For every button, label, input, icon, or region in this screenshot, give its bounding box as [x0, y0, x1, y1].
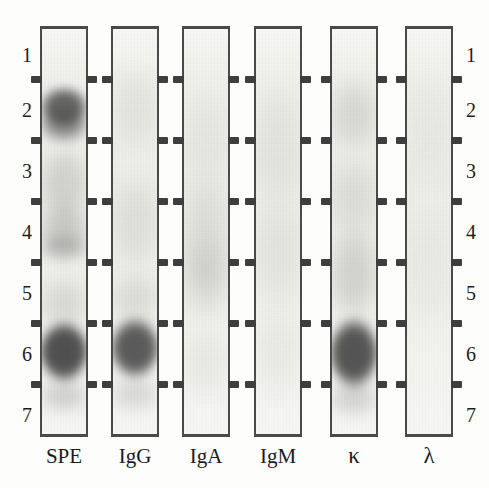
tick-mark-left-6: [31, 381, 42, 388]
tick-mark-right-4: [376, 259, 387, 266]
gel-lane-spe: [40, 26, 88, 437]
gel-strip-grain: [332, 29, 376, 434]
scale-left-label-4: 4: [14, 222, 40, 242]
tick-mark-left-5: [102, 320, 113, 327]
tick-mark-right-2: [86, 137, 97, 144]
tick-mark-left-2: [396, 137, 407, 144]
tick-mark-left-5: [31, 320, 42, 327]
tick-mark-right-6: [300, 381, 311, 388]
lane-label-spe: SPE: [26, 444, 102, 468]
scale-right-label-4: 4: [458, 222, 484, 242]
tick-mark-right-3: [228, 198, 239, 205]
tick-mark-left-1: [31, 76, 42, 83]
tick-mark-left-5: [321, 320, 332, 327]
gel-strip: [254, 26, 302, 437]
gel-strip: [330, 26, 378, 437]
gel-strip: [182, 26, 230, 437]
tick-mark-left-2: [321, 137, 332, 144]
scale-left-label-7: 7: [14, 405, 40, 425]
gel-strip-grain: [407, 29, 451, 434]
tick-mark-right-4: [86, 259, 97, 266]
scale-right-label-6: 6: [458, 344, 484, 364]
ife-gel-figure: 1234567 1234567 SPEIgGIgAIgMκλ: [0, 0, 489, 488]
tick-mark-left-1: [321, 76, 332, 83]
tick-mark-left-5: [396, 320, 407, 327]
tick-mark-left-6: [245, 381, 256, 388]
scale-left-label-3: 3: [14, 161, 40, 181]
tick-mark-right-4: [228, 259, 239, 266]
gel-strip: [111, 26, 159, 437]
scale-right-label-3: 3: [458, 161, 484, 181]
tick-mark-left-1: [245, 76, 256, 83]
tick-mark-right-2: [157, 137, 168, 144]
tick-mark-left-6: [173, 381, 184, 388]
tick-mark-left-4: [173, 259, 184, 266]
scale-right-label-1: 1: [458, 45, 484, 65]
tick-mark-left-3: [321, 198, 332, 205]
tick-mark-right-3: [86, 198, 97, 205]
gel-strip-grain: [256, 29, 300, 434]
tick-mark-right-2: [451, 137, 462, 144]
tick-mark-right-6: [451, 381, 462, 388]
tick-mark-left-3: [396, 198, 407, 205]
tick-mark-right-5: [376, 320, 387, 327]
tick-mark-left-4: [396, 259, 407, 266]
tick-mark-right-4: [157, 259, 168, 266]
tick-mark-right-3: [376, 198, 387, 205]
tick-mark-right-2: [300, 137, 311, 144]
scale-left-label-5: 5: [14, 283, 40, 303]
tick-mark-right-4: [451, 259, 462, 266]
tick-mark-left-4: [31, 259, 42, 266]
lane-label-λ: λ: [391, 444, 467, 468]
tick-mark-left-4: [245, 259, 256, 266]
lane-label-κ: κ: [316, 444, 392, 468]
gel-lane-igm: [254, 26, 302, 437]
tick-mark-right-2: [228, 137, 239, 144]
tick-mark-right-1: [300, 76, 311, 83]
tick-mark-right-6: [376, 381, 387, 388]
tick-mark-right-1: [86, 76, 97, 83]
tick-mark-left-2: [102, 137, 113, 144]
lane-label-iga: IgA: [168, 444, 244, 468]
tick-mark-left-5: [245, 320, 256, 327]
tick-mark-right-6: [86, 381, 97, 388]
tick-mark-left-1: [102, 76, 113, 83]
tick-mark-left-3: [31, 198, 42, 205]
tick-mark-left-1: [396, 76, 407, 83]
lane-label-igm: IgM: [240, 444, 316, 468]
scale-left-label-2: 2: [14, 100, 40, 120]
tick-mark-right-5: [157, 320, 168, 327]
scale-right-label-5: 5: [458, 283, 484, 303]
tick-mark-right-3: [451, 198, 462, 205]
gel-strip: [405, 26, 453, 437]
gel-strip-grain: [42, 29, 86, 434]
gel-strip-grain: [113, 29, 157, 434]
tick-mark-right-2: [376, 137, 387, 144]
tick-mark-left-4: [321, 259, 332, 266]
tick-mark-right-5: [300, 320, 311, 327]
tick-mark-left-4: [102, 259, 113, 266]
gel-lane-κ: [330, 26, 378, 437]
tick-mark-right-1: [451, 76, 462, 83]
scale-right: 1234567: [458, 0, 484, 488]
tick-mark-right-6: [157, 381, 168, 388]
tick-mark-left-2: [31, 137, 42, 144]
tick-mark-left-5: [173, 320, 184, 327]
scale-left-label-6: 6: [14, 344, 40, 364]
gel-strip-grain: [184, 29, 228, 434]
tick-mark-right-5: [451, 320, 462, 327]
tick-mark-left-3: [102, 198, 113, 205]
tick-mark-right-1: [376, 76, 387, 83]
tick-mark-left-6: [102, 381, 113, 388]
scale-left: 1234567: [14, 0, 40, 488]
tick-mark-left-3: [245, 198, 256, 205]
tick-mark-right-5: [86, 320, 97, 327]
tick-mark-right-3: [300, 198, 311, 205]
scale-left-label-1: 1: [14, 45, 40, 65]
tick-mark-left-6: [321, 381, 332, 388]
gel-lane-iga: [182, 26, 230, 437]
tick-mark-right-5: [228, 320, 239, 327]
gel-lane-igg: [111, 26, 159, 437]
tick-mark-right-1: [228, 76, 239, 83]
tick-mark-left-2: [173, 137, 184, 144]
